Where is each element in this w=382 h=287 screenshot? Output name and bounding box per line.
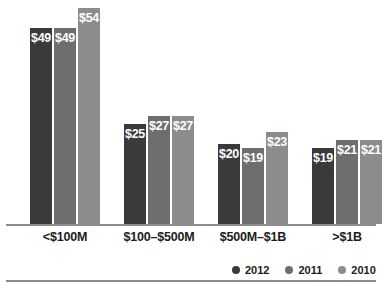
bar-2010-$500M–$1B: $23	[266, 132, 288, 224]
bar-value-label: $23	[266, 135, 288, 149]
bar-value-label: $27	[148, 119, 170, 133]
bar-2012-$100–$500M: $25	[124, 124, 146, 224]
bar-2012-<$100M: $49	[30, 28, 52, 224]
legend-swatch-icon	[338, 266, 346, 274]
bar-2012->$1B: $19	[312, 148, 334, 224]
bar-value-label: $49	[30, 31, 52, 45]
bar-2010-<$100M: $54	[78, 8, 100, 224]
bar-2012-$500M–$1B: $20	[218, 144, 240, 224]
legend-label: 2010	[351, 264, 375, 276]
bar-value-label: $25	[124, 127, 146, 141]
plot-area: $49$49$54$25$27$27$20$19$23$19$21$21	[0, 0, 382, 224]
grouped-bar-chart: $49$49$54$25$27$27$20$19$23$19$21$21 <$1…	[0, 0, 382, 287]
bar-value-label: $19	[242, 151, 264, 165]
bar-value-label: $49	[54, 31, 76, 45]
bar-value-label: $54	[78, 11, 100, 25]
bar-2011-$500M–$1B: $19	[242, 148, 264, 224]
bar-2010-$100–$500M: $27	[172, 116, 194, 224]
footer-divider	[6, 280, 376, 282]
legend-swatch-icon	[285, 266, 293, 274]
legend-item-2011[interactable]: 2011	[285, 264, 322, 276]
bar-2011->$1B: $21	[336, 140, 358, 224]
bar-value-label: $19	[312, 151, 334, 165]
legend-label: 2011	[298, 264, 322, 276]
bar-2011-<$100M: $49	[54, 28, 76, 224]
legend-item-2012[interactable]: 2012	[232, 264, 269, 276]
legend-swatch-icon	[232, 266, 240, 274]
bar-2011-$100–$500M: $27	[148, 116, 170, 224]
bar-value-label: $21	[360, 143, 382, 157]
bar-2010->$1B: $21	[360, 140, 382, 224]
bar-value-label: $20	[218, 147, 240, 161]
bar-value-label: $27	[172, 119, 194, 133]
x-axis-baseline	[6, 224, 376, 226]
category-label-4: >$1B	[287, 228, 382, 246]
legend-label: 2012	[245, 264, 269, 276]
category-axis-labels: <$100M$100–$500M$500M–$1B>$1B	[0, 228, 382, 250]
legend-item-2010[interactable]: 2010	[338, 264, 375, 276]
bar-value-label: $21	[336, 143, 358, 157]
chart-legend: 201220112010	[232, 262, 376, 278]
